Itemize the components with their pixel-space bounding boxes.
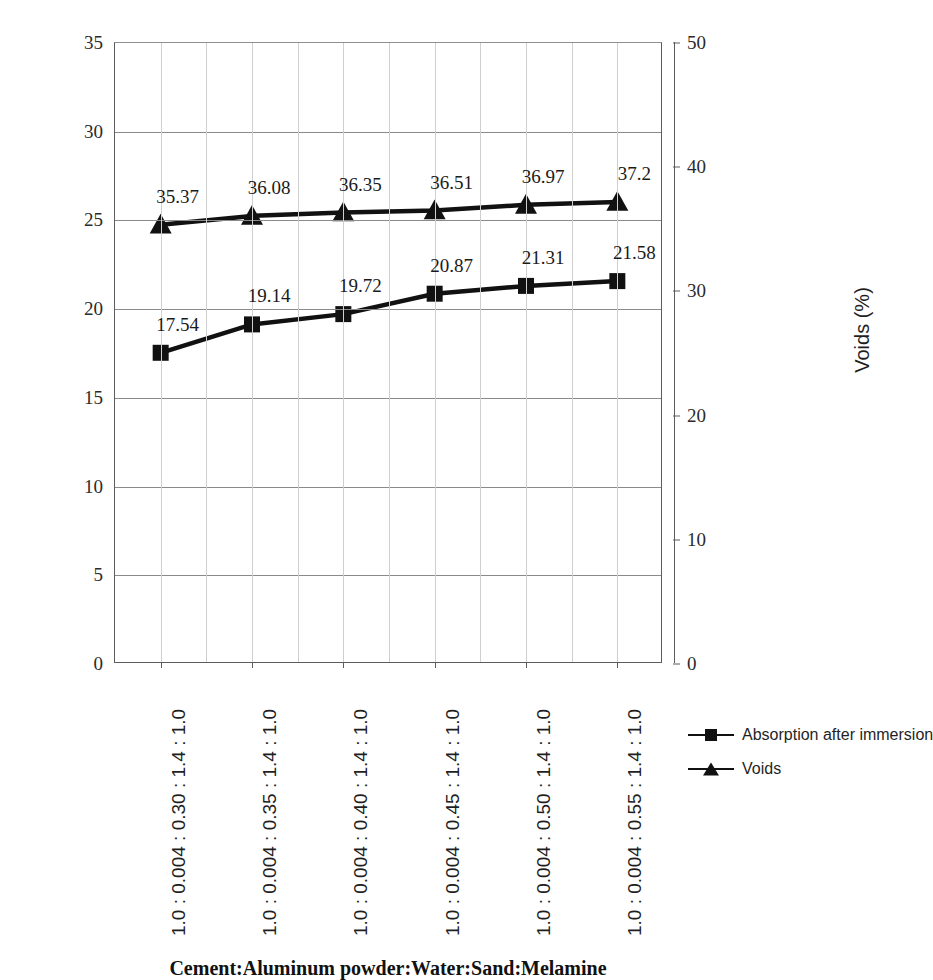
data-value-label: 21.58 [613,242,656,264]
right-axis-tick-label: 10 [687,529,706,551]
legend-square-marker-icon [705,729,717,741]
legend-item[interactable]: Absorption after immersion [688,718,933,752]
right-axis-tick-label: 50 [687,32,706,54]
left-axis-tick-label: 20 [84,298,103,320]
x-axis-tick-mark [435,662,436,668]
x-axis-tick-mark [161,662,162,668]
horizontal-gridline [115,575,661,576]
data-value-label: 19.72 [339,275,382,297]
right-axis-tick-mark [673,664,680,665]
vertical-gridline [617,43,618,662]
x-axis-category-text: 1.0 : 0.004 : 0.45 : 1.4 : 1.0 [442,709,464,936]
x-axis-category-text: 1.0 : 0.004 : 0.30 : 1.4 : 1.0 [168,709,190,936]
data-value-label: 20.87 [430,255,473,277]
vertical-gridline [480,43,481,662]
right-axis-tick-label: 20 [687,405,706,427]
vertical-gridline [572,43,573,662]
x-axis-tick-mark [617,662,618,668]
x-axis-tick-mark [252,662,253,668]
x-axis-category-text: 1.0 : 0.004 : 0.55 : 1.4 : 1.0 [624,709,646,936]
vertical-gridline [526,43,527,662]
left-axis-tick-label: 15 [84,387,103,409]
x-axis-tick-mark [526,662,527,668]
x-axis-category-text: 1.0 : 0.004 : 0.35 : 1.4 : 1.0 [259,709,281,936]
data-value-label: 36.97 [522,166,565,188]
legend-swatch [688,759,734,779]
horizontal-gridline [115,132,661,133]
data-value-label: 36.35 [339,174,382,196]
x-axis-tick-mark [343,662,344,668]
x-axis-category-text: 1.0 : 0.004 : 0.40 : 1.4 : 1.0 [350,709,372,936]
right-axis-tick-label: 0 [687,653,697,675]
data-value-label: 35.37 [156,186,199,208]
left-axis-tick-label: 35 [84,32,103,54]
chart-legend: Absorption after immersionVoids [688,718,933,786]
vertical-gridline [206,43,207,662]
left-axis-tick-label: 5 [94,564,104,586]
horizontal-gridline [115,309,661,310]
left-axis-tick-label: 0 [94,653,104,675]
data-value-label: 19.14 [248,285,291,307]
right-axis-line [674,42,675,663]
legend-swatch [688,725,734,745]
legend-item[interactable]: Voids [688,752,933,786]
data-value-label: 21.31 [522,247,565,269]
right-axis-tick-label: 30 [687,280,706,302]
plot-area: 0510152025303501020304050 [114,42,662,663]
legend-label: Voids [742,760,781,778]
vertical-gridline [435,43,436,662]
horizontal-gridline [115,487,661,488]
vertical-gridline [252,43,253,662]
data-value-label: 37.2 [618,163,651,185]
left-axis-tick-label: 25 [84,209,103,231]
x-axis-category-text: 1.0 : 0.004 : 0.50 : 1.4 : 1.0 [533,709,555,936]
left-axis-tick-label: 30 [84,121,103,143]
horizontal-gridline [115,398,661,399]
vertical-gridline [343,43,344,662]
legend-label: Absorption after immersion [742,726,933,744]
x-axis-title: Cement:Aluminum powder:Water:Sand:Melami… [114,957,662,980]
right-axis-tick-label: 40 [687,156,706,178]
left-axis-tick-label: 10 [84,476,103,498]
data-value-label: 17.54 [156,314,199,336]
vertical-gridline [298,43,299,662]
data-value-label: 36.08 [248,177,291,199]
right-axis-title: Voids (%) [851,287,874,373]
vertical-gridline [389,43,390,662]
data-value-label: 36.51 [430,172,473,194]
legend-triangle-marker-icon [703,763,719,776]
vertical-gridline [161,43,162,662]
horizontal-gridline [115,220,661,221]
